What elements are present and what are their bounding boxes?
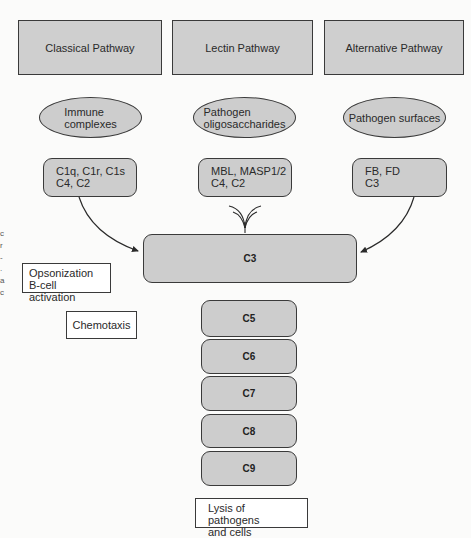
c9-label: C9 — [243, 463, 256, 474]
lysis-label-box: Lysis of pathogens and cells — [195, 498, 308, 528]
c8-box: C8 — [201, 414, 297, 448]
c7-label: C7 — [243, 388, 256, 399]
classical-to-c3-arrow — [79, 197, 138, 251]
c9-box: C9 — [201, 451, 297, 486]
c6-label: C6 — [243, 351, 256, 362]
opsonization-label-box: Opsonization B-cell activation — [22, 263, 111, 293]
c3-label: C3 — [244, 253, 257, 264]
c8-label: C8 — [243, 426, 256, 437]
effect-line: B-cell activation — [29, 279, 104, 303]
c6-box: C6 — [201, 339, 297, 374]
c5-label: C5 — [243, 313, 256, 324]
chemotaxis-label-box: Chemotaxis — [66, 311, 137, 339]
alternative-to-c3-arrow — [361, 197, 414, 252]
effect-line: Opsonization — [29, 267, 104, 279]
effect-line: and cells — [208, 526, 295, 538]
c7-box: C7 — [201, 376, 297, 411]
c5-box: C5 — [201, 300, 297, 337]
c3-box: C3 — [143, 234, 357, 283]
chemotaxis-label: Chemotaxis — [72, 319, 130, 331]
effect-line: Lysis of pathogens — [208, 502, 295, 526]
lectin-converging-icon — [229, 206, 261, 233]
